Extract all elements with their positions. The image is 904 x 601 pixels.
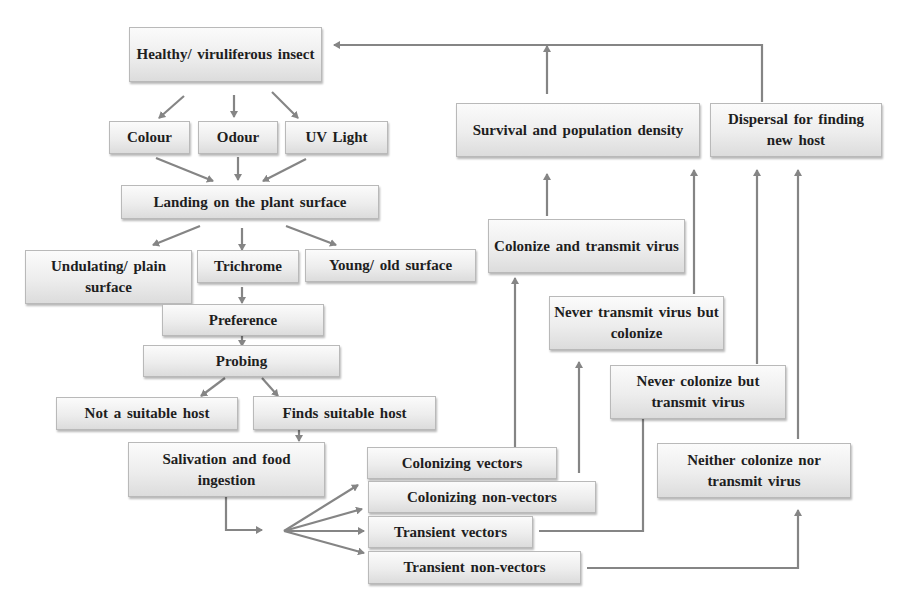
node-uv-light: UV Light [285,121,388,154]
node-label: Trichrome [214,256,282,277]
node-label: Colonizing non-vectors [407,487,557,508]
node-label: Probing [216,351,267,372]
node-never-colonize: Never colonize but transmit virus [610,365,786,419]
node-not-suitable: Not a suitable host [56,397,238,430]
node-label: Young/ old surface [329,255,452,276]
arrow-landing-to-undulating [153,226,200,245]
node-probing: Probing [143,345,340,377]
node-label: Not a suitable host [85,403,210,424]
node-label: Transient non-vectors [403,557,545,578]
arrow-insect-to-colour [159,96,184,118]
node-label: Colonize and transmit virus [494,236,679,257]
node-colonize-transmit: Colonize and transmit virus [488,219,685,273]
node-label: Dispersal for finding new host [715,109,877,151]
node-undulating: Undulating/ plain surface [25,250,192,304]
node-neither: Neither colonize nor transmit virus [657,443,851,498]
node-label: Colour [127,127,172,148]
node-odour: Odour [198,121,278,154]
node-colonizing-vectors: Colonizing vectors [367,447,557,479]
arrow-fan-to-transient-non-vectors [284,531,364,553]
node-survival: Survival and population density [456,103,700,157]
node-trichrome: Trichrome [197,250,299,283]
node-label: Preference [209,310,278,331]
arrow-insect-to-uv [272,92,298,118]
node-label: Never transmit virus but colonize [554,302,719,344]
node-never-transmit: Never transmit virus but colonize [549,296,724,350]
node-label: UV Light [305,127,367,148]
arrow-probing-to-finds [262,378,278,396]
node-label: Never colonize but transmit virus [615,371,781,413]
arrow-transnonvec-to-neither [587,510,798,568]
arrow-uv-to-landing [263,159,306,181]
node-label: Transient vectors [394,522,507,543]
node-preference: Preference [162,304,324,336]
node-colour: Colour [109,121,190,154]
node-label: Salivation and food ingestion [133,449,320,491]
node-label: Landing on the plant surface [153,192,346,213]
node-dispersal: Dispersal for finding new host [710,103,882,157]
arrow-landing-to-young [286,226,336,245]
node-landing: Landing on the plant surface [121,185,379,219]
node-label: Healthy/ viruliferous insect [137,44,315,65]
arrow-colour-to-landing [156,158,213,181]
node-young-old: Young/ old surface [305,249,476,282]
node-finds-suitable: Finds suitable host [253,396,436,430]
node-label: Undulating/ plain surface [30,256,187,298]
node-colonizing-non-vectors: Colonizing non-vectors [368,481,596,513]
node-transient-vectors: Transient vectors [368,516,533,548]
arrow-probing-to-not-suitable [201,378,225,396]
node-label: Odour [217,127,260,148]
node-label: Survival and population density [473,120,684,141]
node-salivation: Salivation and food ingestion [128,442,325,497]
node-transient-non-vectors: Transient non-vectors [368,551,581,584]
node-label: Neither colonize nor transmit virus [662,450,846,492]
arrow-salivation-out [226,496,262,530]
arrow-fan-to-colonizing-non-vectors [284,509,362,531]
node-healthy-insect: Healthy/ viruliferous insect [129,27,322,82]
node-label: Finds suitable host [282,403,406,424]
node-label: Colonizing vectors [402,453,523,474]
